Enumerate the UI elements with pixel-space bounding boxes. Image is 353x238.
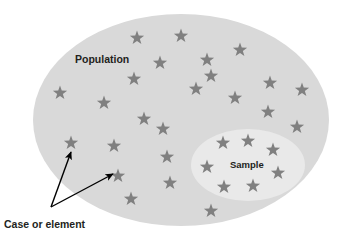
population-label: Population: [75, 53, 129, 65]
diagram-canvas: Population Sample Case or element: [0, 0, 353, 238]
case-or-element-label: Case or element: [4, 218, 86, 230]
population-sample-diagram: Population Sample Case or element: [0, 0, 353, 238]
population-ellipse: [33, 14, 329, 226]
sample-label: Sample: [230, 159, 264, 170]
